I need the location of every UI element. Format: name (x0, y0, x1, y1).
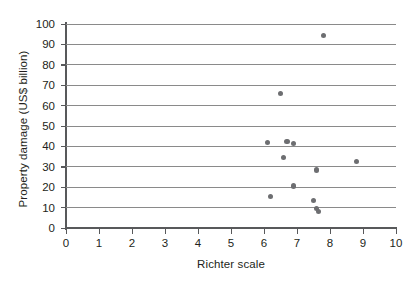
y-tick-label: 10 (21, 202, 55, 214)
x-tick-mark (198, 229, 199, 234)
y-tick-label: 100 (21, 18, 55, 30)
x-tick-label: 9 (350, 237, 376, 249)
x-tick-mark (363, 229, 364, 234)
x-tick-label: 3 (152, 237, 178, 249)
y-tick-label: 70 (21, 79, 55, 91)
data-point (265, 140, 270, 145)
x-tick-mark (330, 229, 331, 234)
x-tick-label: 4 (185, 237, 211, 249)
x-tick-mark (297, 229, 298, 234)
scatter-chart: Property damage (US$ billion) Richter sc… (0, 0, 410, 286)
y-tick-label: 30 (21, 161, 55, 173)
x-tick-label: 6 (251, 237, 277, 249)
y-tick-label: 20 (21, 181, 55, 193)
y-tick-label: 80 (21, 59, 55, 71)
x-tick-label: 8 (317, 237, 343, 249)
x-tick-mark (132, 229, 133, 234)
x-tick-label: 7 (284, 237, 310, 249)
x-tick-mark (66, 229, 67, 234)
y-tick-label: 90 (21, 38, 55, 50)
y-tick-label: 60 (21, 100, 55, 112)
data-point (314, 167, 319, 172)
x-axis-title: Richter scale (66, 258, 396, 270)
x-tick-mark (264, 229, 265, 234)
x-tick-label: 1 (86, 237, 112, 249)
x-tick-mark (99, 229, 100, 234)
y-tick-label: 50 (21, 120, 55, 132)
y-tick-label: 40 (21, 140, 55, 152)
x-tick-mark (231, 229, 232, 234)
x-tick-label: 2 (119, 237, 145, 249)
x-tick-mark (165, 229, 166, 234)
x-tick-label: 0 (53, 237, 79, 249)
x-tick-mark (396, 229, 397, 234)
plot-area (66, 24, 396, 228)
x-tick-label: 5 (218, 237, 244, 249)
y-tick-label: 0 (21, 222, 55, 234)
data-point (321, 33, 326, 38)
x-tick-label: 10 (383, 237, 409, 249)
data-point (284, 139, 289, 144)
